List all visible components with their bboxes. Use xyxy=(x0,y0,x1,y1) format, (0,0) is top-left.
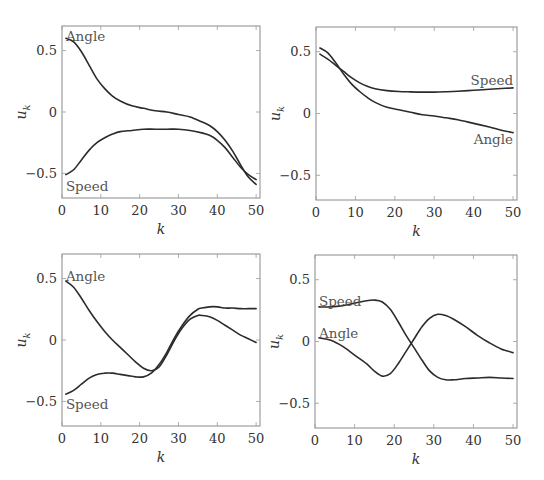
series-label-speed: Speed xyxy=(319,293,362,309)
x-tick-label: 20 xyxy=(386,433,403,448)
y-tick-label: 0.5 xyxy=(290,44,311,59)
x-tick-label: 0 xyxy=(58,431,66,446)
x-tick-label: 40 xyxy=(209,203,226,218)
y-tick-label: −0.5 xyxy=(25,394,57,409)
y-tick-label: 0.5 xyxy=(36,271,57,286)
x-tick-label: 0 xyxy=(312,205,320,220)
series-label-angle: Angle xyxy=(318,325,358,341)
x-tick-label: 10 xyxy=(347,205,364,220)
series-label-angle: Angle xyxy=(65,28,105,44)
y-tick-label: 0 xyxy=(303,106,311,121)
x-tick-label: 30 xyxy=(426,433,443,448)
x-tick-label: 30 xyxy=(170,431,187,446)
y-axis-label: uk xyxy=(13,332,32,347)
y-tick-label: −0.5 xyxy=(279,168,311,183)
y-tick-label: 0 xyxy=(302,334,310,349)
x-tick-label: 0 xyxy=(58,203,66,218)
y-tick-label: 0 xyxy=(49,333,57,348)
panel-bottom-left: 01020304050−0.500.5kukAngleSpeed xyxy=(13,254,264,465)
series-label-angle: Angle xyxy=(473,131,513,147)
x-axis-label: k xyxy=(412,223,420,239)
x-tick-label: 20 xyxy=(131,431,148,446)
x-tick-label: 10 xyxy=(93,431,110,446)
x-tick-label: 20 xyxy=(131,203,148,218)
series-label-speed: Speed xyxy=(66,178,109,194)
x-axis-label: k xyxy=(157,221,165,237)
x-tick-label: 40 xyxy=(209,431,226,446)
series-line-speed xyxy=(66,307,256,394)
x-tick-label: 0 xyxy=(311,433,319,448)
series-label-speed: Speed xyxy=(66,396,109,412)
panel-top-left: 01020304050−0.500.5kukAngleSpeed xyxy=(13,26,264,237)
y-tick-label: 0.5 xyxy=(36,43,57,58)
figure: 01020304050−0.500.5kukAngleSpeed 0102030… xyxy=(0,0,544,480)
x-tick-label: 50 xyxy=(505,205,522,220)
y-tick-label: −0.5 xyxy=(278,396,310,411)
x-tick-label: 50 xyxy=(248,431,265,446)
x-axis-label: k xyxy=(157,449,165,465)
y-tick-label: −0.5 xyxy=(25,166,57,181)
x-tick-label: 40 xyxy=(465,205,482,220)
series-label-angle: Angle xyxy=(65,268,105,284)
series-line-speed xyxy=(66,129,256,179)
x-tick-label: 10 xyxy=(93,203,110,218)
x-tick-label: 50 xyxy=(505,433,522,448)
series-line-angle xyxy=(66,281,256,371)
series-line-angle xyxy=(319,314,513,376)
x-tick-label: 20 xyxy=(387,205,404,220)
x-tick-label: 40 xyxy=(465,433,482,448)
x-axis-label: k xyxy=(412,451,420,467)
y-axis-label: uk xyxy=(267,106,286,121)
x-tick-label: 30 xyxy=(426,205,443,220)
y-axis-label: uk xyxy=(13,104,32,119)
panel-top-right: 01020304050−0.500.5kukSpeedAngle xyxy=(267,27,521,239)
y-axis-label: uk xyxy=(266,334,285,349)
series-line-angle xyxy=(66,38,256,184)
panel-bottom-right: 01020304050−0.500.5kukSpeedAngle xyxy=(266,255,521,467)
y-tick-label: 0 xyxy=(49,105,57,120)
x-tick-label: 10 xyxy=(346,433,363,448)
x-tick-label: 50 xyxy=(248,203,265,218)
x-tick-label: 30 xyxy=(170,203,187,218)
series-label-speed: Speed xyxy=(471,72,514,88)
y-tick-label: 0.5 xyxy=(289,272,310,287)
